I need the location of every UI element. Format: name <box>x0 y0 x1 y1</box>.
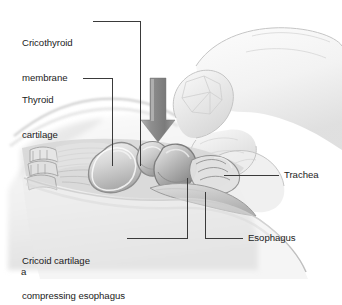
label-cricoid-cartilage-line1: Cricoid cartilage <box>22 255 125 267</box>
label-thyroid-cartilage-line2: cartilage <box>22 129 58 141</box>
label-thyroid-cartilage: Thyroid cartilage <box>22 71 58 164</box>
label-cricoid-cartilage-line2: compressing esophagus <box>22 290 125 302</box>
label-trachea: Trachea <box>284 169 319 181</box>
label-esophagus: Esophagus <box>248 232 296 244</box>
panel-label: a <box>21 266 26 277</box>
label-cricoid-cartilage: Cricoid cartilage compressing esophagus <box>22 232 125 305</box>
label-thyroid-cartilage-line1: Thyroid <box>22 94 58 106</box>
label-cricothyroid-membrane-line1: Cricothyroid <box>22 37 73 49</box>
